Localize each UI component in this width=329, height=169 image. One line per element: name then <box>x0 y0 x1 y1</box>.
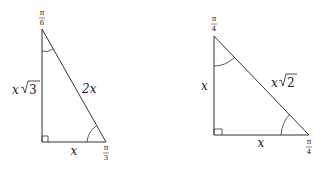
bottom-angle-num: π <box>307 138 312 146</box>
triangles-diagram: π 6 π 3 x 3 2x x π 4 π 4 x x 2 x <box>0 0 329 169</box>
top-angle-arc <box>42 49 53 52</box>
base-label: x <box>71 144 78 158</box>
bottom-angle-num: π <box>104 144 109 152</box>
triangle-outline <box>214 36 309 135</box>
base-label: x <box>258 136 265 150</box>
top-angle-den: 6 <box>40 19 45 27</box>
triangle-45-45-90: π 4 π 4 x x 2 x <box>201 15 312 156</box>
bottom-angle-den: 4 <box>307 148 312 156</box>
hypotenuse-label: 2x <box>81 82 97 96</box>
bottom-angle-den: 3 <box>104 154 108 162</box>
bottom-angle-arc <box>87 126 96 142</box>
hypotenuse-root: 2 <box>287 76 295 90</box>
vertical-side-root: 3 <box>29 83 37 97</box>
top-angle-num: π <box>212 15 217 23</box>
vertical-side-label: x <box>201 79 208 93</box>
triangle-30-60-90: π 6 π 3 x 3 2x x <box>12 9 109 162</box>
top-angle-num: π <box>40 9 45 17</box>
top-angle-den: 4 <box>212 25 217 33</box>
bottom-angle-arc <box>281 114 290 135</box>
hypotenuse-var: x <box>271 76 278 90</box>
top-angle-arc <box>214 58 234 66</box>
right-angle-mark <box>214 129 222 135</box>
vertical-side-var: x <box>12 83 19 97</box>
right-angle-mark <box>42 136 48 142</box>
